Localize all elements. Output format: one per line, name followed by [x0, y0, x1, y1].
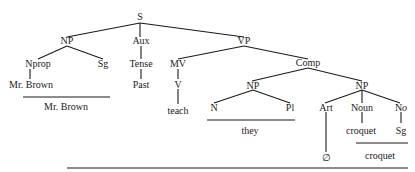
node-tense: Tense — [129, 59, 152, 69]
leaf-mr-brown: Mr. Brown — [9, 80, 53, 90]
node-mv: MV — [170, 59, 186, 69]
node-noun: Noun — [351, 103, 373, 113]
surface-croquet: croquet — [365, 151, 395, 161]
leaf-croquet: croquet — [346, 126, 376, 136]
node-art: Art — [319, 103, 332, 113]
node-comp: Comp — [296, 58, 320, 68]
tree-edges — [0, 0, 415, 172]
node-np-they: NP — [247, 81, 260, 91]
node-np-object: NP — [356, 81, 369, 91]
leaf-past: Past — [133, 80, 150, 90]
node-no: No — [395, 103, 407, 113]
node-n: N — [210, 103, 217, 113]
leaf-sg-object: Sg — [396, 126, 407, 136]
node-pl: Pl — [286, 103, 294, 113]
node-aux: Aux — [132, 36, 149, 46]
leaf-null: ∅ — [322, 153, 331, 163]
leaf-teach: teach — [167, 106, 188, 116]
node-s: S — [137, 12, 143, 22]
node-sg-subject: Sg — [98, 59, 109, 69]
node-vp: VP — [238, 36, 251, 46]
surface-mr-brown: Mr. Brown — [44, 102, 88, 112]
node-np-subject: NP — [61, 36, 74, 46]
surface-they: they — [241, 126, 258, 136]
node-v: V — [174, 80, 181, 90]
node-nprop: Nprop — [25, 59, 51, 69]
